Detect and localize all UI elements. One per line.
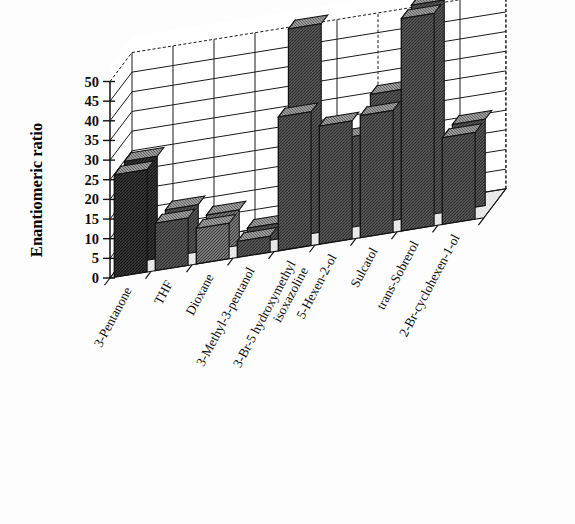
y-tick-label-30: 30 [85,152,100,168]
bar-front-face [442,133,475,225]
y-tick-label-35: 35 [85,132,100,148]
y-tick-label-5: 5 [92,250,99,266]
x-category-label-line: 3-Pentanone [91,284,135,349]
y-tick-label-20: 20 [85,191,100,207]
y-tick-label-45: 45 [85,93,100,109]
y-tick-label-10: 10 [85,231,100,247]
x-category-label-6: Sulcatol [347,244,381,289]
bar-front-face [401,13,434,231]
x-category-label-line: Sulcatol [347,244,381,289]
bar-front-face [360,110,393,237]
x-category-label-line: THF [151,278,176,307]
x-category-label-line: Dioxane [183,271,217,318]
x-category-label-0: 3-Pentanone [91,284,135,349]
y-axis-title: Enantiomeric ratio [27,123,46,257]
bar-front-face [319,121,352,244]
y-tick-label-15: 15 [85,211,100,227]
y-tick-label-40: 40 [85,113,100,129]
bar-front-face [196,223,229,264]
x-category-label-1: THF [151,278,176,307]
y-tick-label-0: 0 [92,270,99,286]
y-tick-label-25: 25 [85,172,100,188]
y-tick-label-50: 50 [85,74,100,90]
bar-front-face [278,112,311,251]
y-axis-title-text: Enantiomeric ratio [27,123,46,257]
bar-front-face [155,218,188,270]
chart-canvas: Enantiomeric ratio 05101520253035404550 … [0,0,575,524]
bar-front-face [114,170,147,277]
enantiomeric-ratio-3d-bar-chart: Enantiomeric ratio 05101520253035404550 … [0,0,575,524]
x-tick-mark-0 [105,278,111,285]
x-category-label-2: Dioxane [183,271,217,318]
